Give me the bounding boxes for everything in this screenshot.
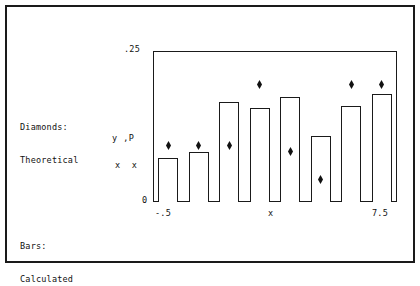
diamond-marker-1 — [196, 141, 201, 150]
diamonds-layer — [153, 51, 397, 202]
y-axis-title-subscripts: x x — [112, 161, 137, 170]
legend-bars-title: Bars: — [20, 241, 130, 252]
y-axis-title-row1: y ,P — [112, 134, 137, 143]
diamond-marker-5 — [318, 175, 323, 184]
diamond-marker-0 — [166, 141, 171, 150]
y-axis-min-tick-label: 0 — [142, 195, 147, 205]
x-axis-title: x — [268, 208, 273, 218]
plot-area — [153, 51, 397, 202]
diamond-marker-4 — [288, 147, 293, 156]
diamond-marker-2 — [227, 141, 232, 150]
diamond-marker-6 — [349, 80, 354, 89]
x-axis-max-tick-label: 7.5 — [372, 208, 388, 218]
x-axis-min-tick-label: -.5 — [155, 208, 171, 218]
diamond-marker-3 — [257, 80, 262, 89]
diamond-marker-7 — [379, 80, 384, 89]
y-axis-max-tick-label: .25 — [124, 44, 140, 54]
legend-group-bars: Bars: Calculated — [20, 219, 130, 286]
legend-bars-subtitle: Calculated — [20, 274, 130, 285]
y-axis-title: y ,P x x — [112, 116, 137, 188]
